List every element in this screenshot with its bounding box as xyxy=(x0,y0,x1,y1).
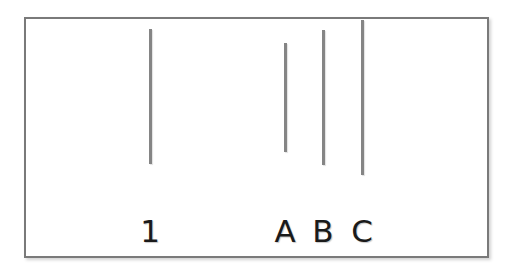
comparison-line-a xyxy=(284,43,287,152)
label-a: A xyxy=(274,216,295,247)
label-reference-1: 1 xyxy=(140,216,160,247)
comparison-line-b xyxy=(322,30,325,165)
label-c: C xyxy=(351,216,373,247)
reference-line-1 xyxy=(149,29,152,164)
comparison-line-c xyxy=(361,20,364,175)
label-b: B xyxy=(312,216,333,247)
stimulus-frame xyxy=(24,17,489,258)
